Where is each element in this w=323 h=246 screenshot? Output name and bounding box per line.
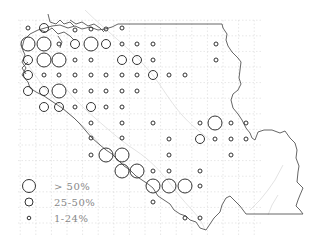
data-point-small (244, 137, 248, 141)
data-point-small (89, 153, 93, 157)
data-point-large (208, 116, 222, 130)
data-point-small (57, 42, 61, 46)
data-point-small (89, 73, 93, 77)
data-point-small (120, 121, 124, 125)
data-point-small (120, 26, 124, 30)
large-circle-icon (20, 179, 38, 193)
small-circle-icon (20, 211, 38, 225)
legend-item-small: 1-24% (20, 210, 130, 226)
data-point-small (89, 121, 93, 125)
data-point-large (162, 179, 176, 193)
data-point-small (120, 136, 124, 140)
data-point-medium (196, 135, 205, 144)
data-point-small (120, 89, 124, 93)
legend-label-medium: 25-50% (54, 197, 95, 208)
data-point-small (73, 105, 77, 109)
data-point-small (244, 121, 248, 125)
data-point-small (229, 137, 233, 141)
data-point-small (167, 153, 171, 157)
data-point-small (135, 89, 139, 93)
data-point-small (151, 58, 155, 62)
data-point-small (135, 42, 139, 46)
data-point-large (37, 53, 51, 67)
data-point-medium (40, 103, 49, 112)
data-point-small (151, 121, 155, 125)
legend-label-small: 1-24% (54, 213, 88, 224)
data-point-small (42, 73, 46, 77)
data-point-small (183, 73, 187, 77)
data-point-small (151, 169, 155, 173)
data-point-small (104, 105, 108, 109)
data-point-medium (71, 40, 80, 49)
data-point-small (198, 169, 202, 173)
legend: > 50% 25-50% 1-24% (20, 178, 130, 226)
legend-item-medium: 25-50% (20, 194, 130, 210)
data-point-small (214, 58, 218, 62)
data-point-small (151, 200, 155, 204)
data-point-large (146, 179, 160, 193)
data-point-large (115, 164, 129, 178)
data-point-small (104, 89, 108, 93)
data-point-large (115, 148, 129, 162)
data-point-small (26, 26, 30, 30)
data-point-small (89, 58, 93, 62)
data-point-small (57, 73, 61, 77)
data-point-large (52, 84, 66, 98)
data-point-large (37, 37, 51, 51)
data-point-small (229, 153, 233, 157)
data-point-small (73, 58, 77, 62)
data-point-small (214, 42, 218, 46)
data-point-large (84, 37, 98, 51)
data-point-small (73, 73, 77, 77)
data-point-small (104, 73, 108, 77)
data-point-small (73, 28, 77, 32)
data-point-small (120, 73, 124, 77)
data-point-small (183, 216, 187, 220)
data-point-medium (102, 40, 111, 49)
data-point-small (213, 137, 217, 141)
data-point-small (167, 137, 171, 141)
map-figure: > 50% 25-50% 1-24% (0, 0, 323, 246)
data-point-medium (24, 71, 33, 80)
data-point-medium (87, 103, 96, 112)
data-point-small (89, 89, 93, 93)
data-point-large (130, 164, 144, 178)
data-point-medium (24, 56, 33, 65)
data-point-small (73, 89, 77, 93)
data-point-medium (24, 87, 33, 96)
legend-label-large: > 50% (54, 181, 90, 192)
data-point-small (151, 42, 155, 46)
medium-circle-icon (20, 195, 38, 209)
data-point-medium (118, 56, 127, 65)
data-point-small (198, 121, 202, 125)
legend-item-large: > 50% (20, 178, 130, 194)
data-point-small (167, 169, 171, 173)
data-point-large (52, 53, 66, 67)
data-point-small (229, 121, 233, 125)
data-point-small (198, 184, 202, 188)
data-point-small (167, 73, 171, 77)
data-point-small (120, 105, 124, 109)
data-point-medium (133, 56, 142, 65)
data-point-large (178, 179, 192, 193)
data-point-small (135, 73, 139, 77)
